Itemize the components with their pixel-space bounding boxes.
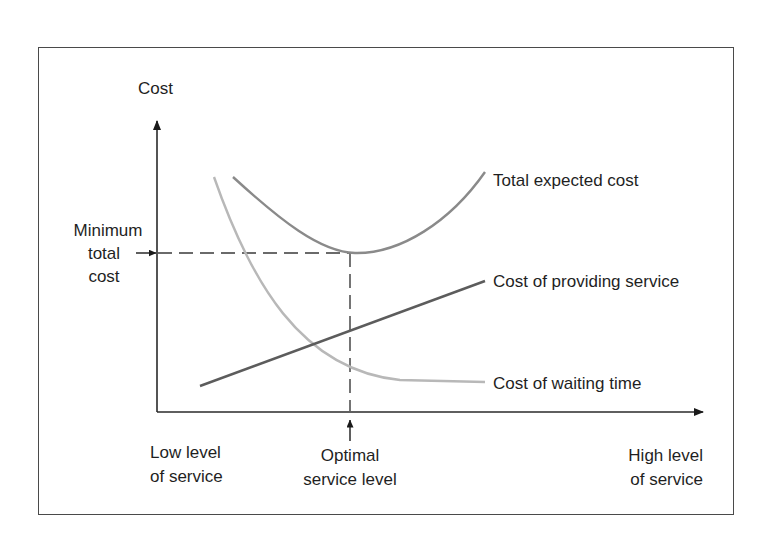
providing-cost-legend: Cost of providing service: [493, 271, 679, 292]
optimal-service-label-line2: service level: [270, 469, 430, 490]
low-service-label-line1: Low level: [150, 442, 221, 463]
min-cost-label-line1: Minimum: [60, 220, 156, 241]
min-cost-label-line3: cost: [74, 266, 134, 287]
optimal-service-label-line1: Optimal: [290, 445, 410, 466]
total-cost-legend: Total expected cost: [493, 170, 639, 191]
providing-cost-line: [200, 281, 485, 386]
high-service-label-line1: High level: [583, 445, 703, 466]
waiting-cost-legend: Cost of waiting time: [493, 373, 641, 394]
min-cost-label-line2: total: [74, 243, 134, 264]
total-cost-curve: [233, 172, 485, 253]
y-axis-label: Cost: [138, 78, 173, 99]
low-service-label-line2: of service: [150, 466, 223, 487]
high-service-label-line2: of service: [583, 469, 703, 490]
